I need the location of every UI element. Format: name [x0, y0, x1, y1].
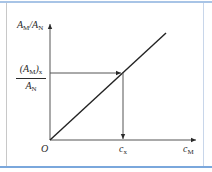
- cx-label: cx: [119, 144, 127, 156]
- measured-ratio-label: (AM)x AN: [15, 64, 47, 93]
- y-axis-label: AM/AN: [17, 20, 43, 32]
- calibration-line: [50, 33, 166, 140]
- x-axis-label: cM: [183, 144, 194, 156]
- origin-label: O: [41, 144, 48, 154]
- figure-frame: AM/AN (AM)x AN O cx cM: [0, 0, 212, 172]
